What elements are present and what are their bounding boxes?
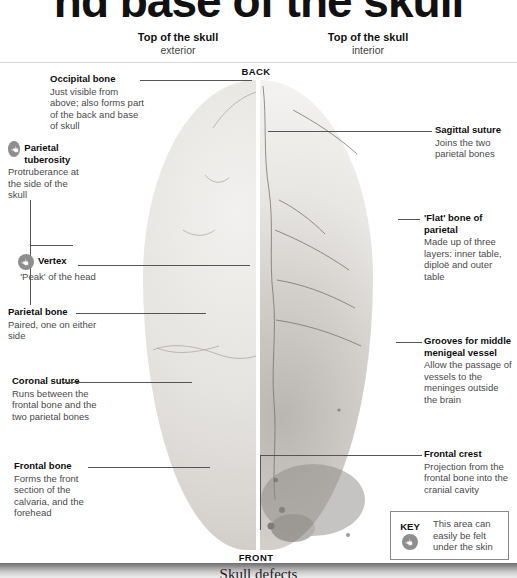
page-title: nd base of the skull — [0, 0, 517, 28]
column-header-exterior-subtitle: exterior — [78, 44, 278, 57]
callout-grooves-middle-menigeal-vessel-body: Allow the passage of vessels to the meni… — [424, 359, 514, 405]
leader-line-frontal-crest-vertical — [260, 455, 261, 530]
callout-frontal-bone: Frontal bone Forms the front section of … — [14, 460, 104, 519]
touch-finger-icon — [18, 254, 34, 270]
touch-finger-icon — [8, 141, 20, 157]
callout-vertex-body: 'Peak' of the head — [18, 271, 98, 283]
key-label: KEY — [400, 521, 420, 532]
column-header-interior-subtitle: interior — [268, 44, 468, 57]
key-description: This area can easily be felt under the s… — [427, 518, 507, 553]
touch-finger-icon — [402, 534, 418, 550]
leader-line-vertex — [78, 265, 250, 266]
callout-occipital-bone: Occipital bone Just visible from above; … — [50, 73, 146, 132]
callout-coronal-suture-body: Runs between the frontal bone and the tw… — [12, 388, 110, 423]
callout-grooves-middle-menigeal-vessel: Grooves for middle menigeal vessel Allow… — [424, 335, 514, 405]
leader-line-frontal-crest-horizontal — [260, 455, 422, 456]
callout-parietal-bone-heading: Parietal bone — [8, 306, 100, 318]
column-header-exterior: Top of the skull exterior — [78, 31, 278, 57]
next-section-title: Skull defects — [0, 566, 517, 578]
leader-line-parietal-tuberosity-horizontal — [30, 245, 73, 246]
callout-flat-bone-of-parietal-body: Made up of three layers: inner table, di… — [424, 236, 512, 282]
callout-occipital-bone-heading: Occipital bone — [50, 73, 146, 85]
leader-line-occipital-bone — [140, 80, 252, 81]
column-header-interior: Top of the skull interior — [268, 31, 468, 57]
callout-frontal-bone-body: Forms the front section of the calvaria,… — [14, 473, 104, 519]
callout-coronal-suture-heading: Coronal suture — [12, 375, 110, 387]
leader-line-frontal-bone — [88, 467, 210, 468]
key-box: KEY This area can easily be felt under t… — [390, 511, 509, 560]
callout-frontal-crest-body: Projection from the frontal bone into th… — [424, 461, 514, 496]
callout-frontal-crest-heading: Frontal crest — [424, 448, 514, 460]
callout-parietal-bone: Parietal bone Paired, one on either side — [8, 306, 100, 342]
leader-line-grooves-middle-menigeal-vessel — [396, 342, 422, 343]
callout-flat-bone-of-parietal-heading: 'Flat' bone of parietal — [424, 212, 512, 235]
callout-grooves-middle-menigeal-vessel-heading: Grooves for middle menigeal vessel — [424, 335, 514, 358]
callout-flat-bone-of-parietal: 'Flat' bone of parietal Made up of three… — [424, 212, 512, 282]
header-divider-rule — [0, 62, 517, 63]
callout-parietal-tuberosity: Parietal tuberosity Protruberance at the… — [8, 141, 88, 201]
leader-line-flat-bone-of-parietal — [398, 219, 420, 220]
callout-vertex-heading: Vertex — [38, 254, 67, 267]
infographic-page: nd base of the skull Top of the skull ex… — [0, 0, 517, 578]
orientation-label-back: BACK — [216, 66, 296, 77]
callout-parietal-bone-body: Paired, one on either side — [8, 319, 100, 342]
callout-parietal-tuberosity-body: Protruberance at the side of the skull — [8, 166, 88, 201]
column-header-exterior-title: Top of the skull — [78, 31, 278, 44]
callout-occipital-bone-body: Just visible from above; also forms part… — [50, 86, 146, 132]
skull-illustration — [143, 80, 373, 550]
callout-sagittal-suture: Sagittal suture Joins the two parietal b… — [435, 124, 517, 160]
orientation-label-front: FRONT — [216, 552, 296, 563]
leader-line-sagittal-suture — [268, 131, 432, 132]
column-header-interior-title: Top of the skull — [268, 31, 468, 44]
callout-frontal-bone-heading: Frontal bone — [14, 460, 104, 472]
callout-frontal-crest: Frontal crest Projection from the fronta… — [424, 448, 514, 495]
skull-half-interior — [260, 80, 373, 550]
callout-sagittal-suture-heading: Sagittal suture — [435, 124, 517, 136]
callout-sagittal-suture-body: Joins the two parietal bones — [435, 137, 517, 160]
leader-line-parietal-bone — [76, 313, 206, 314]
leader-line-parietal-tuberosity-vertical — [30, 200, 31, 305]
callout-vertex: Vertex 'Peak' of the head — [18, 254, 98, 283]
callout-parietal-tuberosity-heading: Parietal tuberosity — [24, 141, 88, 165]
leader-line-coronal-suture — [62, 382, 192, 383]
skull-half-exterior — [143, 80, 256, 550]
